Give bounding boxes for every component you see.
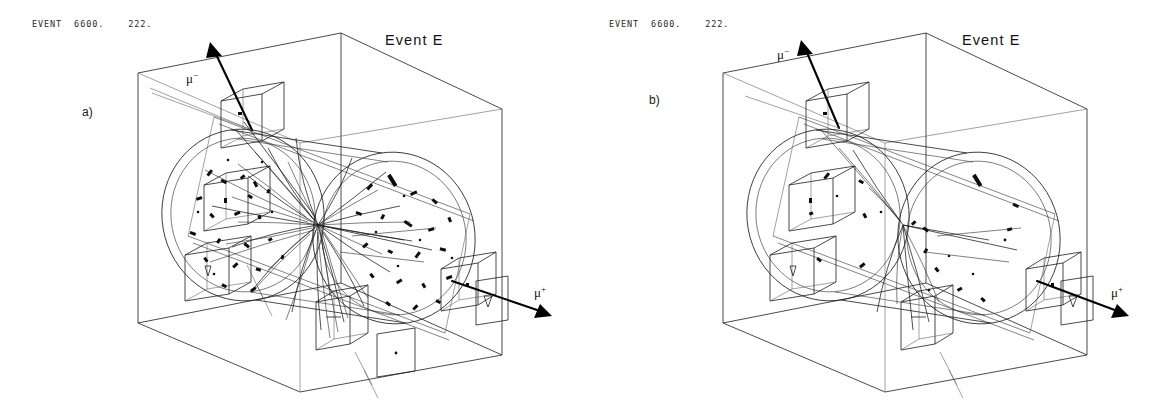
- detector-scene-a: [0, 0, 576, 407]
- muon-chamber-left-upper-b: [789, 166, 855, 231]
- figure-root: EVENT 6600. 222. a) Event E μ− μ+: [0, 0, 1153, 407]
- hit-markers-b: [809, 172, 1021, 302]
- muon-chamber-left-lower-b: [770, 236, 836, 301]
- panel-a: EVENT 6600. 222. a) Event E μ− μ+: [0, 0, 576, 407]
- muon-panel-bottom-right-a: [377, 328, 415, 377]
- muon-chamber-left-lower-a: [185, 236, 251, 301]
- muon-negative-arrow-a: [150, 42, 252, 130]
- detector-scene-b: [577, 0, 1153, 407]
- muon-positive-arrow-b: [1037, 281, 1129, 318]
- muon-chamber-top-b: [806, 82, 869, 148]
- particle-tracks-a: [205, 122, 432, 338]
- panel-b: EVENT 6600. 222. b) Event E μ− μ+: [577, 0, 1153, 407]
- scan-marks-b: [940, 352, 963, 398]
- muon-chamber-top-a: [221, 82, 284, 148]
- bounding-box-a: [138, 33, 502, 392]
- muon-chamber-bottom-center-a: [316, 285, 368, 350]
- muon-chamber-bottom-center-b: [901, 285, 953, 350]
- bounding-box-b: [723, 33, 1087, 392]
- muon-panel-right-a: [476, 276, 508, 325]
